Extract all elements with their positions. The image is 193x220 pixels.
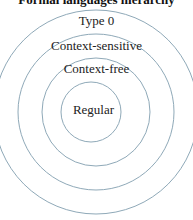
diagram-canvas: Formal languages hierarchy Type 0 Contex…: [0, 0, 193, 220]
label-context-sensitive: Context-sensitive: [0, 38, 193, 54]
label-regular: Regular: [0, 102, 190, 118]
label-context-free: Context-free: [0, 61, 193, 77]
label-type-0: Type 0: [0, 13, 193, 29]
